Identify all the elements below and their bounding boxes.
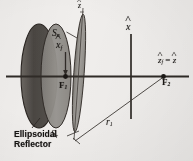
radius-r1-label: r1	[106, 118, 113, 128]
z-feed-axis-label: zf = z	[158, 56, 176, 66]
sr-leader-line	[67, 131, 79, 136]
x-feed-axis-label: xf	[56, 40, 62, 51]
sa-leader-line	[67, 32, 78, 38]
reflector-caption: Ellipsoidal Reflector	[14, 129, 57, 149]
focus-f2-label: F2	[162, 78, 170, 88]
ellipsoidal-reflector-diagram: Sa xf F1 x zf = z F2 r1 Sr z Ellipsoidal…	[0, 0, 193, 161]
focus-f1-dot	[63, 74, 68, 79]
ray-r1	[75, 77, 164, 141]
sr-leader-line2	[73, 138, 80, 144]
reflector-surface-shape	[70, 14, 89, 132]
reflector-caption-line2: Reflector	[14, 139, 57, 149]
focus-f1-label: F1	[59, 81, 67, 91]
tilted-axis-label: z	[78, 2, 81, 10]
reflector-caption-line1: Ellipsoidal	[14, 129, 57, 139]
x-axis-label: x	[126, 22, 130, 32]
